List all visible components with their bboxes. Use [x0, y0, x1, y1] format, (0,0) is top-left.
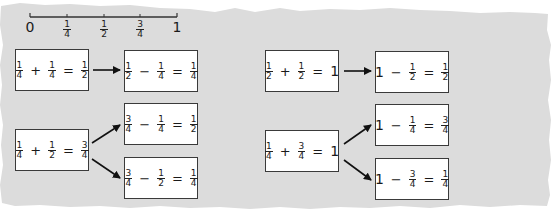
equation-box-sum: 12 + 12 = 1	[265, 50, 339, 92]
equation-box-difference: 12 − 14 = 14	[124, 50, 198, 92]
tick-label-three-quarters: 34	[130, 20, 150, 39]
tick-label-0: 0	[20, 19, 40, 35]
equation-box-sum: 14 + 14 = 12	[15, 49, 89, 91]
equation-box-difference: 1 − 34 = 14	[375, 158, 449, 200]
tick-label-half: 12	[94, 20, 114, 39]
tick-label-quarter: 14	[57, 20, 77, 39]
equation-box-sum: 14 + 34 = 1	[265, 130, 339, 172]
tick-label-1: 1	[167, 19, 187, 35]
equation-box-sum: 14 + 12 = 34	[15, 129, 89, 171]
equation-box-difference: 34 − 14 = 12	[124, 103, 198, 145]
equation-box-difference: 1 − 12 = 12	[375, 51, 449, 93]
equation-box-difference: 1 − 14 = 34	[375, 104, 449, 146]
equation-box-difference: 34 − 12 = 14	[124, 157, 198, 199]
number-line: 0 14 12 34 1	[0, 0, 200, 50]
